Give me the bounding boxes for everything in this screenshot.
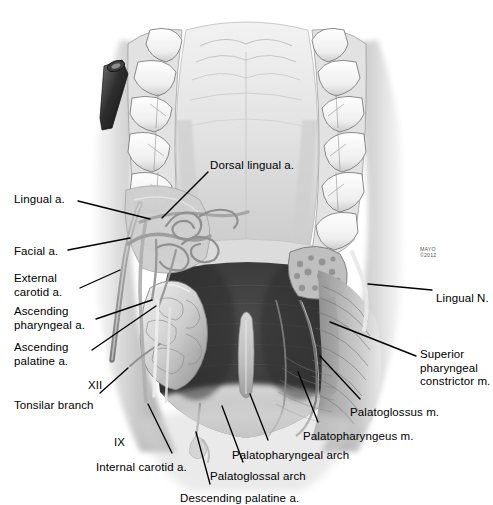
label-palatopharyngeal-arch: Palatopharyngeal arch	[232, 449, 349, 463]
mayo-credit: MAYO ©2012	[420, 246, 436, 258]
label-ascending-pharyngeal-a: Ascending pharyngeal a.	[14, 305, 85, 332]
label-descending-palatine-a: Descending palatine a.	[180, 492, 299, 505]
label-lingual-a: Lingual a.	[14, 193, 65, 207]
label-cn-xii: XII	[88, 379, 102, 393]
label-palatopharyngeus-m: Palatopharyngeus m.	[303, 430, 414, 444]
anatomy-illustration-figure: Dorsal lingual a.Lingual a.Facial a.Exte…	[0, 0, 493, 505]
label-tonsilar-branch: Tonsilar branch	[14, 399, 93, 413]
uvula	[238, 312, 254, 398]
label-lingual-n: Lingual N.	[436, 292, 489, 306]
label-ascending-palatine-a: Ascending palatine a.	[14, 341, 69, 368]
mayo-credit-line2: ©2012	[420, 252, 436, 258]
label-superior-pharyngeal-constrictor-m: Superior pharyngeal constrictor m.	[420, 348, 490, 389]
label-palatoglossal-arch: Palatoglossal arch	[210, 470, 306, 484]
label-facial-a: Facial a.	[14, 245, 58, 259]
artwork-body	[91, 22, 407, 492]
label-dorsal-lingual-a: Dorsal lingual a.	[210, 159, 294, 173]
label-external-carotid-a: External carotid a.	[14, 272, 62, 299]
label-cn-ix: IX	[114, 436, 125, 450]
label-internal-carotid-a: Internal carotid a.	[96, 461, 187, 475]
label-palatoglossus-m: Palatoglossus m.	[350, 406, 439, 420]
